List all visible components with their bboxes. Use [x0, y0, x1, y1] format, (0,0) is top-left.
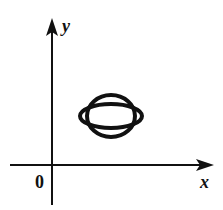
- x-axis-label: x: [199, 172, 209, 192]
- y-axis-label: y: [60, 16, 71, 36]
- coordinate-diagram: y x 0: [0, 0, 223, 210]
- origin-label: 0: [35, 172, 44, 192]
- vertical-ellipse: [87, 95, 135, 137]
